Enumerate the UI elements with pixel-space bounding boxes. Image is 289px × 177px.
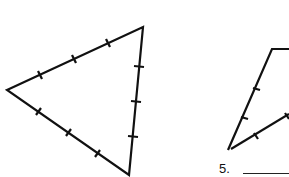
triangle-figure	[7, 27, 144, 175]
problem-number: 5.	[219, 162, 230, 175]
answer-blank[interactable]	[243, 173, 289, 174]
partial-figure-5	[228, 49, 289, 150]
worksheet-figures	[0, 0, 289, 177]
